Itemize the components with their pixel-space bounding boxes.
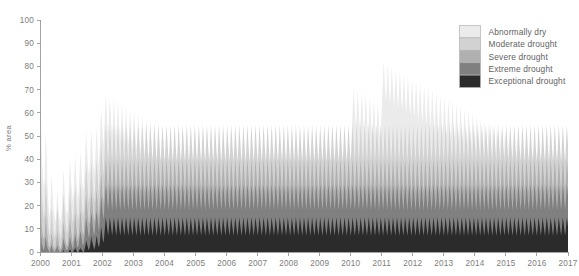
x-tick-label: 2003: [124, 259, 143, 268]
x-tick-label: 2007: [248, 259, 267, 268]
x-tick-label: 2013: [434, 259, 453, 268]
x-tick-label: 2014: [465, 259, 484, 268]
chart-legend: Abnormally dryModerate droughtSevere dro…: [460, 26, 566, 88]
x-tick-label: 2012: [403, 259, 422, 268]
x-tick-label: 2002: [93, 259, 112, 268]
legend-swatch-abnormally-dry: [460, 26, 481, 38]
legend-label-abnormally-dry: Abnormally dry: [489, 27, 548, 37]
y-axis-title-text: % area: [4, 125, 13, 151]
legend-swatch-moderate-drought: [460, 38, 481, 50]
legend-swatch-extreme-drought: [460, 63, 481, 75]
legend-label-exceptional-drought: Exceptional drought: [489, 76, 566, 86]
y-tick-label: 40: [24, 155, 34, 164]
x-tick-label: 2010: [341, 259, 360, 268]
x-tick-label: 2016: [527, 259, 546, 268]
y-tick-label: 0: [29, 248, 34, 257]
chart-plot-areas: [41, 62, 569, 252]
legend-label-moderate-drought: Moderate drought: [489, 39, 558, 49]
y-tick-label: 30: [24, 178, 34, 187]
x-tick-label: 2011: [373, 259, 392, 268]
legend-label-severe-drought: Severe drought: [489, 52, 549, 62]
y-axis-tick-labels: 0102030405060708090100: [20, 16, 35, 257]
legend-swatch-exceptional-drought: [460, 75, 481, 87]
x-tick-label: 2009: [310, 259, 329, 268]
x-tick-label: 2008: [279, 259, 298, 268]
x-tick-label: 2004: [155, 259, 174, 268]
x-tick-label: 2006: [217, 259, 236, 268]
legend-swatch-severe-drought: [460, 50, 481, 62]
x-tick-label: 2015: [496, 259, 515, 268]
y-tick-label: 10: [24, 225, 34, 234]
y-tick-label: 90: [24, 39, 34, 48]
y-tick-label: 50: [24, 132, 34, 141]
y-tick-label: 20: [24, 202, 34, 211]
y-tick-label: 100: [20, 16, 35, 25]
y-axis-title: % area: [4, 125, 13, 151]
x-tick-label: 2001: [62, 259, 81, 268]
drought-area-chart-page: 0102030405060708090100 20002001200220032…: [0, 0, 579, 276]
x-tick-label: 2000: [31, 259, 50, 268]
y-tick-label: 80: [24, 62, 34, 71]
drought-stacked-area-chart: 0102030405060708090100 20002001200220032…: [0, 0, 579, 276]
y-tick-label: 70: [24, 86, 34, 95]
x-axis-tick-labels: 2000200120022003200420052006200720082009…: [31, 259, 578, 268]
x-tick-label: 2005: [186, 259, 205, 268]
y-tick-label: 60: [24, 109, 34, 118]
x-tick-label: 2017: [558, 259, 577, 268]
legend-label-extreme-drought: Extreme drought: [489, 64, 554, 74]
